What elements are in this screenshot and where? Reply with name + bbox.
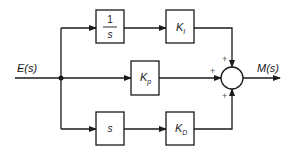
sign-left: + [210, 66, 215, 76]
pid-block-diagram: E(s) 1 s KI Kp s KD + + + M(s) [0, 0, 294, 157]
ki-sub: I [183, 28, 185, 35]
output-label: M(s) [257, 62, 279, 74]
proportional-gain-block: Kp [131, 61, 159, 95]
kp-sub: p [146, 78, 151, 86]
kd-sub: D [182, 129, 187, 136]
input-label: E(s) [17, 62, 38, 74]
integrator-denominator: s [108, 29, 113, 40]
integrator-block: 1 s [96, 10, 124, 43]
differentiator-label: s [108, 123, 113, 134]
summing-junction [221, 67, 243, 89]
sign-bottom: + [222, 91, 227, 101]
sign-top: + [222, 54, 227, 64]
differentiator-block: s [96, 112, 124, 145]
derivative-gain-block: KD [166, 112, 194, 145]
integrator-numerator: 1 [107, 14, 113, 25]
integral-gain-block: KI [166, 10, 194, 43]
